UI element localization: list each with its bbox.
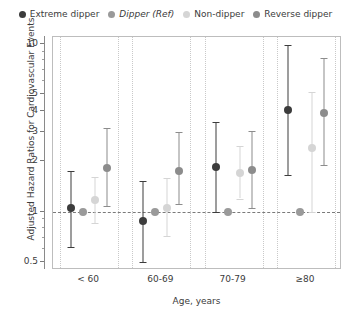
confidence-interval-cap bbox=[212, 122, 219, 123]
y-axis-label: Adjusted Hazard Ratios for Cardiovascula… bbox=[26, 14, 36, 244]
legend-item-label: Extreme dipper bbox=[30, 10, 100, 19]
confidence-interval-cap bbox=[68, 247, 75, 248]
confidence-interval-cap bbox=[140, 262, 147, 263]
confidence-interval-cap bbox=[176, 132, 183, 133]
confidence-interval-cap bbox=[308, 92, 315, 93]
confidence-interval-cap bbox=[212, 212, 219, 213]
legend-item-label: Non-dipper bbox=[194, 10, 244, 19]
y-tick-minor bbox=[42, 51, 45, 52]
y-tick-minor bbox=[42, 237, 45, 238]
y-tick-minor bbox=[42, 59, 45, 60]
x-axis-ticks: < 6060-6970-79≥80 bbox=[52, 275, 341, 289]
y-tick-minor bbox=[42, 248, 45, 249]
confidence-interval-cap bbox=[68, 171, 75, 172]
confidence-interval-cap bbox=[104, 206, 111, 207]
y-tick-minor bbox=[42, 218, 45, 219]
x-tick-label: < 60 bbox=[77, 275, 99, 284]
data-point[interactable] bbox=[91, 196, 99, 204]
confidence-interval-cap bbox=[308, 212, 315, 213]
y-tick-mark bbox=[40, 43, 44, 44]
legend-item-2[interactable]: Non-dipper bbox=[183, 10, 244, 19]
vertical-gridline bbox=[277, 37, 278, 268]
legend-item-label: Reverse dipper bbox=[264, 10, 332, 19]
data-point[interactable] bbox=[308, 144, 316, 152]
y-tick-mark bbox=[40, 131, 44, 132]
y-tick-mark bbox=[40, 93, 44, 94]
confidence-interval-cap bbox=[140, 181, 147, 182]
confidence-interval-cap bbox=[284, 175, 291, 176]
data-point[interactable] bbox=[212, 163, 220, 171]
x-axis-label: Age, years bbox=[52, 296, 341, 306]
data-point[interactable] bbox=[175, 167, 183, 175]
vertical-gridline bbox=[263, 37, 264, 268]
hazard-ratio-forest-chart: Extreme dipperDipper (Ref)Non-dipperReve… bbox=[0, 0, 351, 317]
x-tick-label: 60-69 bbox=[147, 275, 173, 284]
data-point[interactable] bbox=[151, 208, 159, 216]
data-point[interactable] bbox=[224, 208, 232, 216]
confidence-interval-cap bbox=[92, 177, 99, 178]
data-point[interactable] bbox=[67, 204, 75, 212]
y-tick-minor bbox=[42, 227, 45, 228]
data-point[interactable] bbox=[296, 208, 304, 216]
vertical-gridline bbox=[205, 37, 206, 268]
chart-legend: Extreme dipperDipper (Ref)Non-dipperReve… bbox=[0, 0, 351, 28]
y-tick-minor bbox=[42, 80, 45, 81]
vertical-gridline bbox=[118, 37, 119, 268]
y-tick-mark bbox=[40, 211, 44, 212]
confidence-interval-cap bbox=[92, 223, 99, 224]
data-point[interactable] bbox=[79, 208, 87, 216]
confidence-interval-cap bbox=[248, 131, 255, 132]
y-tick-minor bbox=[42, 69, 45, 70]
data-point[interactable] bbox=[139, 217, 147, 225]
plot-area bbox=[52, 36, 341, 269]
confidence-interval-cap bbox=[248, 208, 255, 209]
y-tick-mark bbox=[40, 160, 44, 161]
confidence-interval-cap bbox=[236, 199, 243, 200]
y-tick-mark bbox=[40, 261, 44, 262]
data-point[interactable] bbox=[248, 166, 256, 174]
legend-swatch-icon bbox=[19, 11, 26, 18]
vertical-gridline bbox=[60, 37, 61, 268]
legend-swatch-icon bbox=[108, 11, 115, 18]
legend-item-3[interactable]: Reverse dipper bbox=[253, 10, 332, 19]
data-point[interactable] bbox=[236, 169, 244, 177]
data-point[interactable] bbox=[320, 109, 328, 117]
legend-item-1[interactable]: Dipper (Ref) bbox=[108, 10, 174, 19]
vertical-gridline bbox=[335, 37, 336, 268]
confidence-interval-cap bbox=[320, 165, 327, 166]
confidence-interval-cap bbox=[236, 146, 243, 147]
data-point[interactable] bbox=[284, 106, 292, 114]
legend-swatch-icon bbox=[253, 11, 260, 18]
vertical-gridline bbox=[132, 37, 133, 268]
confidence-interval-cap bbox=[104, 128, 111, 129]
x-tick-label: ≥80 bbox=[295, 275, 314, 284]
vertical-gridline bbox=[190, 37, 191, 268]
confidence-interval-cap bbox=[320, 58, 327, 59]
data-point[interactable] bbox=[163, 204, 171, 212]
legend-item-label: Dipper (Ref) bbox=[119, 10, 174, 19]
legend-swatch-icon bbox=[183, 11, 190, 18]
confidence-interval-cap bbox=[284, 45, 291, 46]
plot-inner bbox=[53, 37, 340, 268]
confidence-interval-cap bbox=[164, 236, 171, 237]
y-tick-mark bbox=[40, 110, 44, 111]
y-tick-label: 0.5 bbox=[24, 257, 38, 266]
data-point[interactable] bbox=[103, 164, 111, 172]
confidence-interval-cap bbox=[176, 204, 183, 205]
confidence-interval-cap bbox=[164, 178, 171, 179]
x-tick-label: 70-79 bbox=[220, 275, 246, 284]
